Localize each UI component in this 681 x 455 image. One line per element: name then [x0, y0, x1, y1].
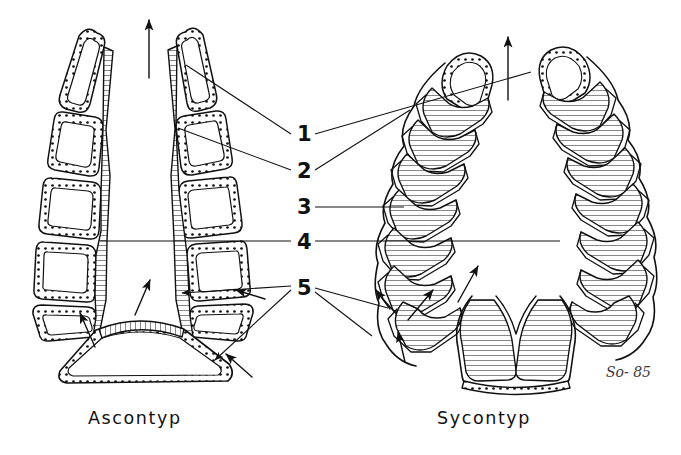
ascon-cell [48, 112, 103, 176]
label-number-3: 3 [297, 195, 312, 219]
label-number-1: 1 [297, 122, 312, 146]
label-number-2: 2 [297, 159, 312, 183]
figure-root: 1 2 3 4 5 Ascontyp Sycontyp So- 85 [0, 0, 681, 455]
ascon-cell [176, 111, 232, 175]
ascon-cell [186, 304, 253, 341]
caption-ascon: Ascontyp [88, 408, 182, 428]
artist-signature: So- 85 [606, 364, 651, 380]
label-number-5: 5 [297, 276, 312, 300]
ascon-cell [179, 177, 242, 238]
caption-sycon: Sycontyp [437, 408, 531, 428]
sponge-comparison-diagram: 1 2 3 4 5 Ascontyp Sycontyp So- 85 [0, 0, 681, 455]
ascon-cell [39, 178, 101, 239]
ascon-cell [34, 242, 96, 302]
label-number-4: 4 [297, 230, 312, 254]
